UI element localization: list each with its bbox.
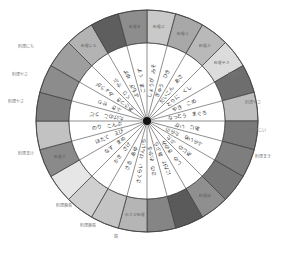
outer-segment-label: 料理さ: [54, 154, 66, 159]
external-label: 料理まき: [255, 153, 271, 159]
external-label: 料理にい: [250, 127, 266, 133]
external-label: 料理にち: [18, 43, 34, 49]
outer-segment-label: 料理ほ: [199, 193, 211, 198]
external-label: 料理鹿島: [56, 202, 72, 208]
external-label: 料理まけ: [18, 150, 34, 156]
outer-segment-label: 料理にち: [81, 43, 97, 48]
center-hub: [143, 117, 151, 125]
external-label: 料理やさ: [228, 71, 244, 77]
outer-segment-label: わさび料理: [125, 212, 145, 217]
outer-segment-label: 料理やさ: [214, 60, 230, 65]
outer-segment-label: 料理ふ: [177, 31, 189, 36]
outer-segment-label: 料理ぶ: [153, 24, 165, 29]
outer-segment-label: 料理ぶ: [199, 43, 211, 48]
external-label: 料理鹿島: [80, 222, 96, 228]
color-wheel-diagram: 料理ぶ料理ふ料理ぶ料理やさ料理ほわさび料理料理さ料理にち料理ま しょうが みそぎ…: [0, 0, 290, 254]
external-label: 料理やさ: [12, 71, 28, 77]
outer-segment-label: 料理ま: [129, 24, 141, 29]
external-label: 料理やさ: [245, 99, 261, 105]
external-label: 鶏: [114, 233, 118, 239]
external-label: 料理やさ: [8, 98, 24, 104]
